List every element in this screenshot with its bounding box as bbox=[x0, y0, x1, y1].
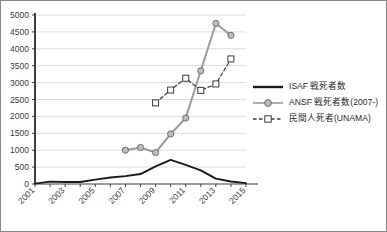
x-tick-label: 2001 bbox=[16, 185, 37, 206]
chart-legend: ISAF 戦死者数ANSF 戦死者数(2007-)民間人死者(UNAMA) bbox=[253, 80, 378, 123]
data-point-unama bbox=[153, 100, 159, 106]
y-tick-label: 3500 bbox=[10, 61, 29, 71]
data-point-unama bbox=[183, 75, 189, 81]
data-point-ansf bbox=[183, 115, 189, 121]
y-tick-label: 2000 bbox=[10, 111, 29, 121]
y-axis-tick-labels: 0500100015002000250030003500400045005000 bbox=[10, 10, 29, 189]
data-point-unama bbox=[198, 87, 204, 93]
data-point-ansf bbox=[198, 68, 204, 74]
series-line-isaf bbox=[35, 160, 246, 184]
line-chart: 0500100015002000250030003500400045005000… bbox=[1, 1, 387, 232]
y-tick-label: 5000 bbox=[10, 10, 29, 20]
y-tick-label: 4500 bbox=[10, 27, 29, 37]
series-isaf bbox=[35, 160, 246, 184]
chart-frame: 0500100015002000250030003500400045005000… bbox=[0, 0, 387, 232]
y-tick-label: 2500 bbox=[10, 95, 29, 105]
legend-circle-marker-icon bbox=[265, 100, 272, 107]
x-tick-label: 2009 bbox=[137, 185, 158, 206]
data-point-ansf bbox=[228, 32, 234, 38]
y-tick-label: 4000 bbox=[10, 44, 29, 54]
data-point-unama bbox=[168, 87, 174, 93]
x-tick-label: 2015 bbox=[227, 185, 248, 206]
data-point-ansf bbox=[152, 149, 158, 155]
x-axis-tick-labels: 20012003200520072009201120132015 bbox=[16, 185, 248, 206]
x-tick-label: 2003 bbox=[46, 185, 67, 206]
data-point-ansf bbox=[168, 131, 174, 137]
x-tick-label: 2013 bbox=[197, 185, 218, 206]
x-tick-label: 2007 bbox=[106, 185, 127, 206]
series-unama bbox=[153, 56, 234, 106]
x-tick-label: 2011 bbox=[167, 185, 187, 205]
legend-label: 民間人死者(UNAMA) bbox=[289, 113, 371, 123]
series-ansf bbox=[122, 20, 234, 155]
legend-label: ISAF 戦死者数 bbox=[289, 80, 347, 91]
x-tick-label: 2005 bbox=[76, 185, 97, 206]
legend-square-marker-icon bbox=[265, 116, 271, 122]
legend-label: ANSF 戦死者数(2007-) bbox=[289, 96, 378, 107]
y-tick-label: 1000 bbox=[10, 145, 29, 155]
data-point-unama bbox=[213, 81, 219, 87]
chart-container: 0500100015002000250030003500400045005000… bbox=[1, 1, 387, 232]
y-tick-label: 1500 bbox=[10, 128, 29, 138]
y-tick-label: 3000 bbox=[10, 78, 29, 88]
data-point-ansf bbox=[213, 20, 219, 26]
y-tick-label: 500 bbox=[15, 162, 29, 172]
data-point-ansf bbox=[137, 144, 143, 150]
data-point-unama bbox=[228, 56, 234, 62]
data-point-ansf bbox=[122, 147, 128, 153]
